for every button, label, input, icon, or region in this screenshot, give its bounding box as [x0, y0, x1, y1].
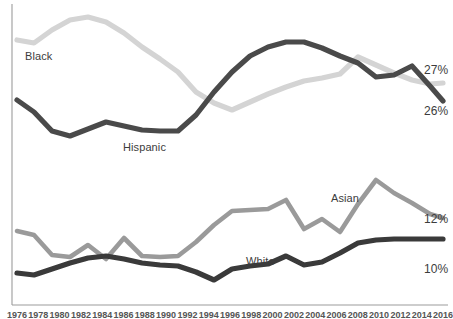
x-tick-label: 1992: [177, 310, 197, 319]
x-tick-label: 1998: [241, 310, 261, 319]
series-line-hispanic: [17, 42, 443, 136]
series-line-black: [17, 17, 443, 110]
end-value-label-hispanic: 26%: [424, 104, 448, 118]
series-label-asian: Asian: [331, 192, 359, 204]
x-tick-label: 1988: [135, 310, 155, 319]
chart-plot-area: [0, 0, 453, 319]
x-tick-label: 1984: [92, 310, 112, 319]
end-value-label-asian: 12%: [424, 212, 448, 226]
x-tick-label: 1990: [156, 310, 176, 319]
end-value-label-white: 10%: [424, 262, 448, 276]
x-tick-label: 2008: [348, 310, 368, 319]
x-tick-label: 2016: [433, 310, 453, 319]
series-label-white: White: [246, 255, 275, 267]
end-value-label-black: 27%: [424, 63, 448, 77]
series-label-hispanic: Hispanic: [123, 141, 166, 153]
x-tick-label: 1996: [220, 310, 240, 319]
x-tick-label: 2006: [326, 310, 346, 319]
x-tick-label: 1994: [199, 310, 219, 319]
x-tick-label: 2012: [390, 310, 410, 319]
x-tick-label: 1986: [113, 310, 133, 319]
x-tick-label: 1976: [7, 310, 27, 319]
x-tick-label: 1982: [71, 310, 91, 319]
line-chart: Black Hispanic Asian White 27% 26% 12% 1…: [0, 0, 453, 319]
x-tick-label: 1980: [50, 310, 70, 319]
x-tick-label: 2014: [412, 310, 432, 319]
series-line-white: [17, 239, 443, 280]
x-tick-label: 2010: [369, 310, 389, 319]
x-tick-label: 1978: [28, 310, 48, 319]
series-label-black: Black: [25, 50, 52, 62]
x-tick-label: 2002: [284, 310, 304, 319]
x-tick-label: 2004: [305, 310, 325, 319]
x-tick-label: 2000: [263, 310, 283, 319]
series-line-asian: [17, 180, 443, 259]
